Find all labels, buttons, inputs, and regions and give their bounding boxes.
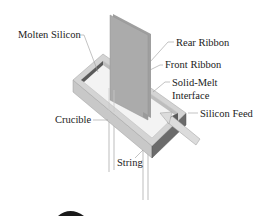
diagram-canvas: Molten Silicon Rear Ribbon Front Ribbon …: [0, 0, 267, 216]
label-molten-silicon: Molten Silicon: [18, 29, 81, 40]
label-string: String: [117, 157, 143, 168]
label-solid-melt: Solid-Melt: [172, 77, 218, 88]
label-silicon-feed: Silicon Feed: [200, 108, 254, 119]
leader-solid-melt: [153, 82, 170, 92]
label-crucible: Crucible: [55, 114, 91, 125]
string-ribbon-diagram: Molten Silicon Rear Ribbon Front Ribbon …: [0, 0, 267, 216]
label-front-ribbon: Front Ribbon: [165, 59, 222, 70]
leader-front-ribbon: [150, 65, 163, 70]
label-rear-ribbon: Rear Ribbon: [176, 37, 230, 48]
label-interface: Interface: [172, 90, 210, 101]
bottom-arc-artifact: [58, 211, 84, 216]
